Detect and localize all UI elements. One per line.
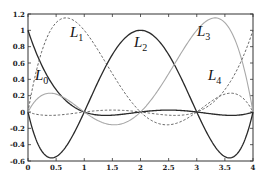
x-tick-label: 4 [251, 163, 256, 172]
label-l4: L4 [207, 67, 221, 86]
x-tick-label: 1.5 [106, 163, 118, 172]
lagrange-basis-chart: -0.6-0.4-0.200.20.40.60.811.2 00.511.522… [0, 0, 269, 178]
y-tick-label: 1 [20, 26, 25, 35]
y-tick-label: 0.8 [13, 42, 25, 51]
x-tick-label: 1 [82, 163, 87, 172]
x-tick-label: 3.5 [219, 163, 231, 172]
x-tick-label: 0.5 [50, 163, 62, 172]
y-tick-label: -0.4 [10, 140, 25, 149]
y-tick-label: -0.6 [10, 157, 25, 166]
label-l0: L0 [34, 67, 48, 86]
label-l2: L2 [133, 34, 147, 53]
x-tick-label: 2 [138, 163, 143, 172]
label-l1: L1 [69, 24, 83, 43]
y-tick-label: 0.4 [13, 75, 25, 84]
y-tick-label: 1.2 [13, 10, 25, 19]
label-l3: L3 [196, 23, 210, 42]
x-tick-label: 0 [26, 163, 31, 172]
x-tick-label: 3 [194, 163, 199, 172]
y-tick-label: 0.2 [13, 91, 25, 100]
y-tick-label: -0.2 [10, 124, 25, 133]
y-tick-label: 0 [20, 108, 25, 117]
x-tick-label: 2.5 [163, 163, 175, 172]
y-tick-label: 0.6 [13, 59, 25, 68]
